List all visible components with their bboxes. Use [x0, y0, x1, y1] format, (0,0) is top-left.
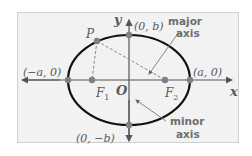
vertex-left-label: (−a, 0) [23, 66, 61, 79]
point-p [94, 38, 100, 44]
point-p-label: P [85, 27, 95, 41]
minor-axis-callout-line [136, 100, 166, 121]
dashed-p-to-f1 [92, 41, 97, 80]
f2-label: F2 [164, 86, 178, 102]
point-covertex-top [126, 32, 132, 38]
major-axis-label-line1: major [168, 15, 203, 27]
minor-axis-label-line2: axis [176, 128, 200, 140]
point-vertex-left [65, 77, 71, 83]
point-f1 [89, 77, 95, 83]
y-axis-label: y [113, 12, 123, 27]
major-axis-label-line2: axis [176, 27, 200, 39]
x-axis-label: x [229, 84, 238, 99]
ellipse-diagram: y x O P F1 F2 (−a, 0) (a, 0) (0, b) (0, … [0, 0, 252, 156]
vertex-right-label: (a, 0) [193, 66, 222, 79]
point-covertex-bottom [126, 122, 132, 128]
minor-axis-label-line1: minor [170, 115, 205, 127]
origin-label: O [116, 83, 128, 98]
point-f2 [162, 77, 168, 83]
dashed-p-to-f2 [97, 41, 165, 80]
f1-label: F1 [95, 86, 109, 102]
covertex-top-label: (0, b) [134, 20, 164, 33]
covertex-bottom-label: (0, −b) [76, 132, 115, 145]
